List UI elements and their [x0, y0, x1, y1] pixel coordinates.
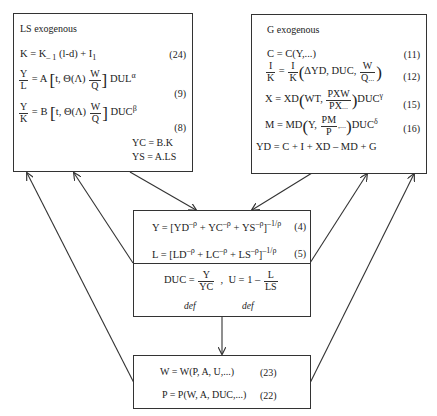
- equation-8: YK = B [t, Θ(Λ) WQ] DUCβ: [18, 102, 137, 124]
- g-exogenous-box: G exogenous C = C(Y,...) (11) IK = IK(ΔY…: [251, 14, 427, 174]
- eq-number-4: (4): [294, 221, 306, 232]
- equation-9: YL = A [t, Θ(Λ) WQ] DULα: [18, 69, 136, 91]
- equation-15: X = XD(WT, PXWPX...)DUCγ: [265, 89, 383, 111]
- equation-23: W = W(P, A, U,...): [160, 367, 234, 377]
- eq-number-11: (11): [404, 49, 420, 60]
- equation-24: K = K– 1 (l-d) + I1: [20, 48, 96, 62]
- equation-16: M = MD(Y, PMP,...)DUCδ: [265, 115, 378, 137]
- eq-number-8: (8): [174, 122, 186, 133]
- def-label-u: def: [242, 301, 254, 311]
- arrow-def-to-ls: [74, 173, 133, 263]
- yd-identity: YD = C + I + XD – MD + G: [256, 142, 377, 153]
- arrow-g-to-ces: [252, 173, 312, 210]
- equation-12: IK = IK(ΔYD, DUC, WQ...): [265, 61, 382, 83]
- eq-number-5: (5): [294, 248, 306, 259]
- eq-number-15: (15): [403, 99, 420, 110]
- ls-exogenous-box: LS exogenous K = K– 1 (l-d) + I1 (24) YL…: [13, 13, 193, 172]
- yc-definition: YC = B.K: [132, 138, 173, 148]
- ys-definition: YS = A.LS: [132, 152, 176, 162]
- eq-number-23: (23): [260, 367, 277, 378]
- wage-price-box: W = W(P, A, U,...) (23) P = P(W, A, DUC,…: [133, 355, 311, 409]
- arrow-ls-to-ces: [130, 172, 196, 210]
- eq-number-22: (22): [260, 390, 277, 401]
- arrow-wp-to-ls: [27, 173, 134, 383]
- g-box-title: G exogenous: [267, 25, 320, 35]
- arrow-wp-to-g: [310, 174, 414, 383]
- arrow-def-to-g: [310, 174, 367, 263]
- equation-11: C = C(Y,...): [267, 49, 316, 60]
- eq-number-9: (9): [174, 88, 186, 99]
- equation-5: L = [LD–ρ + LC–ρ + LS–ρ]–1/ρ: [152, 246, 276, 260]
- def-label-duc: def: [184, 301, 196, 311]
- eq-number-24: (24): [169, 49, 186, 60]
- ls-box-title: LS exogenous: [20, 24, 77, 34]
- definitions-box: DUC = YYC , U = 1 – LLS def def: [133, 263, 311, 317]
- duc-definition: DUC = YYC , U = 1 – LLS: [164, 270, 279, 292]
- ces-aggregation-box: Y = [YD–ρ + YC–ρ + YS–ρ]–1/ρ (4) L = [LD…: [133, 210, 311, 264]
- equation-22: P = P(W, A, DUC,...): [162, 390, 246, 400]
- eq-number-12: (12): [403, 71, 420, 82]
- equation-4: Y = [YD–ρ + YC–ρ + YS–ρ]–1/ρ: [152, 219, 281, 233]
- eq-number-16: (16): [403, 123, 420, 134]
